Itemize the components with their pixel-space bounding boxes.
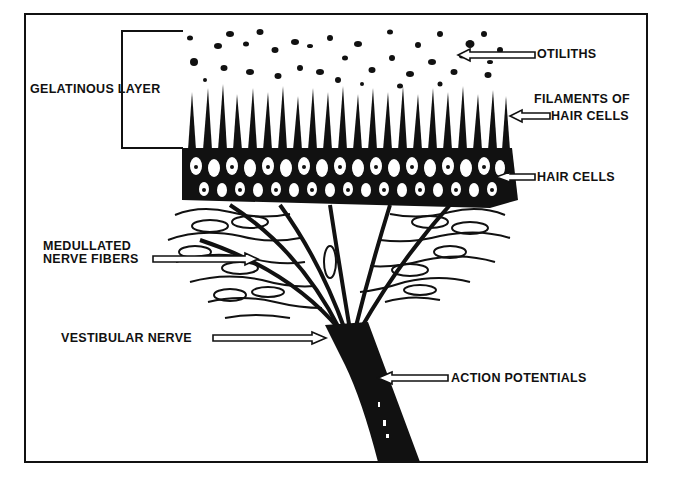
label-vestibular-nerve: VESTIBULAR NERVE (61, 331, 192, 345)
vestibular-nerve-trunk (325, 322, 420, 462)
label-hair-cells: HAIR CELLS (537, 170, 615, 184)
hair-cell-filaments (188, 84, 510, 150)
label-medullated-line1: MEDULLATED (43, 239, 131, 253)
hair-cell-layer (182, 148, 518, 208)
label-otiliths: OTILITHS (537, 47, 596, 61)
label-filaments-line2: HAIR CELLS (551, 109, 629, 123)
label-medullated-line2: NERVE FIBERS (43, 252, 139, 266)
otoliths-dots (187, 29, 503, 89)
label-gelatinous-layer: GELATINOUS LAYER (30, 82, 161, 96)
label-filaments-line1: FILAMENTS OF (534, 92, 630, 106)
label-action-potentials: ACTION POTENTIALS (451, 371, 587, 385)
